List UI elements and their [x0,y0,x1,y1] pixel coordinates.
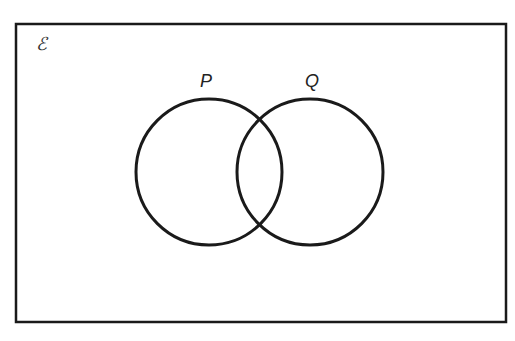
set-q-label: Q [305,71,319,91]
set-p-circle [136,99,282,245]
universal-set-rectangle [16,24,506,322]
universal-set-symbol: ℰ [36,34,49,54]
set-p-label: P [200,71,212,91]
set-q-circle [237,99,383,245]
venn-diagram: ℰ P Q [0,0,515,341]
